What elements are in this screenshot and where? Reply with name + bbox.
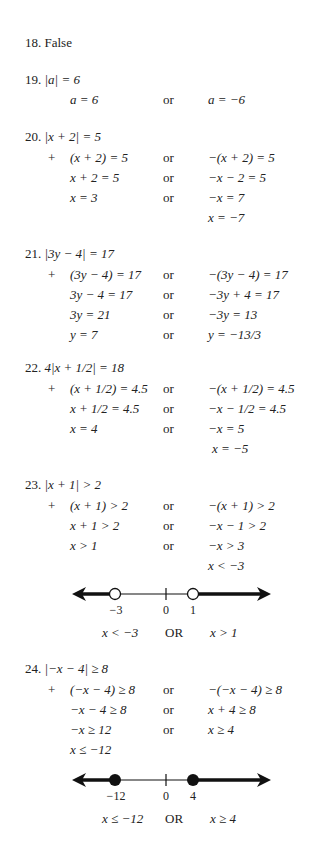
step-connector: or (163, 538, 174, 553)
tick-label: 4 (190, 790, 196, 803)
tick-label: 0 (163, 790, 169, 803)
step-right: −x > 3 (208, 538, 244, 553)
step-left: x + 1/2 = 4.5 (70, 401, 139, 416)
closed-circle-icon (109, 774, 121, 786)
step-left: (−x − 4) ≥ 8 (70, 682, 135, 697)
problem-number: 23. (25, 477, 41, 492)
problem-number: 22. (25, 360, 41, 375)
problem-22-heading: 22. 4|x + 1/2| = 18 (25, 360, 124, 375)
step-right: −x = 5 (208, 421, 244, 436)
step-left: −x − 4 ≥ 8 (70, 702, 126, 717)
problem-equation: |x + 2| = 5 (45, 129, 101, 144)
step-right: x < −3 (208, 558, 244, 573)
problem-24-heading: 24. |−x − 4| ≥ 8 (25, 661, 108, 676)
step-connector: or (163, 327, 174, 342)
step-connector: or (163, 307, 174, 322)
step-connector: or (163, 92, 174, 107)
plus-marker: + (48, 150, 55, 165)
step-left: 3y = 21 (70, 307, 111, 322)
open-circle-icon (188, 589, 199, 600)
step-connector: or (163, 722, 174, 737)
problem-number: 21. (25, 246, 41, 261)
step-right: −x − 1/2 = 4.5 (208, 401, 286, 416)
step-connector: or (163, 190, 174, 205)
step-connector: or (163, 498, 174, 513)
solution-left: x ≤ −12 (102, 811, 143, 826)
cut-off-previous-line (0, 0, 311, 3)
step-left: a = 6 (70, 92, 98, 107)
tick-label: −12 (107, 790, 126, 803)
step-connector: or (163, 381, 174, 396)
step-right: x + 4 ≥ 8 (208, 702, 256, 717)
step-connector: or (163, 682, 174, 697)
number-line-24 (0, 766, 311, 796)
step-left: −x ≥ 12 (70, 722, 111, 737)
step-left: x + 2 = 5 (70, 170, 119, 185)
open-circle-icon (110, 589, 121, 600)
tick-label: −3 (110, 604, 123, 617)
step-connector: or (163, 421, 174, 436)
plus-marker: + (48, 498, 55, 513)
problem-equation: |x + 1| > 2 (45, 477, 101, 492)
problem-18: 18. False (25, 35, 72, 50)
step-connector: or (163, 702, 174, 717)
step-right: x = −7 (208, 210, 244, 225)
step-left: y = 7 (70, 327, 98, 342)
problem-equation: |3y − 4| = 17 (45, 246, 114, 261)
step-right: −(3y − 4) = 17 (208, 267, 288, 282)
step-right: −(−x − 4) ≥ 8 (208, 682, 282, 697)
closed-circle-icon (187, 774, 199, 786)
step-right: −3y = 13 (208, 307, 257, 322)
plus-marker: + (48, 381, 55, 396)
step-connector: or (163, 170, 174, 185)
step-left: (x + 1/2) = 4.5 (70, 381, 148, 396)
step-left: (3y − 4) = 17 (70, 267, 141, 282)
step-left: x ≤ −12 (70, 742, 111, 757)
problem-equation: 4|x + 1/2| = 18 (45, 360, 125, 375)
step-connector: or (163, 401, 174, 416)
step-left: x = 4 (70, 421, 98, 436)
step-right: −x = 7 (208, 190, 244, 205)
step-right: y = −13/3 (208, 327, 261, 342)
problem-number: 20. (25, 129, 41, 144)
solution-left: x < −3 (102, 625, 138, 640)
solution-right: x ≥ 4 (210, 811, 236, 826)
problem-equation: |−x − 4| ≥ 8 (45, 661, 109, 676)
plus-marker: + (48, 267, 55, 282)
step-right: −3y + 4 = 17 (208, 287, 279, 302)
step-right: −(x + 1/2) = 4.5 (208, 381, 295, 396)
step-right: x ≥ 4 (208, 722, 234, 737)
step-right: −(x + 1) > 2 (208, 498, 275, 513)
step-left: (x + 1) > 2 (70, 498, 128, 513)
problem-number: 24. (25, 661, 41, 676)
problem-answer: False (45, 35, 72, 50)
tick-label: 1 (190, 604, 196, 617)
step-left: x = 3 (70, 190, 98, 205)
step-left: 3y − 4 = 17 (70, 287, 132, 302)
solution-connector: OR (165, 811, 183, 826)
step-right: −x − 1 > 2 (208, 518, 266, 533)
problem-number: 19. (25, 72, 41, 87)
step-left: (x + 2) = 5 (70, 150, 128, 165)
step-left: x > 1 (70, 538, 98, 553)
number-line-23 (0, 580, 311, 610)
step-right: −(x + 2) = 5 (208, 150, 275, 165)
step-connector: or (163, 518, 174, 533)
step-left: x + 1 > 2 (70, 518, 119, 533)
step-connector: or (163, 287, 174, 302)
step-right: x = −5 (212, 441, 248, 456)
problem-21-heading: 21. |3y − 4| = 17 (25, 246, 114, 261)
plus-marker: + (48, 682, 55, 697)
step-right: −x − 2 = 5 (208, 170, 266, 185)
problem-20-heading: 20. |x + 2| = 5 (25, 129, 101, 144)
step-right: a = −6 (208, 92, 245, 107)
tick-label: 0 (163, 604, 169, 617)
step-connector: or (163, 150, 174, 165)
problem-number: 18. (25, 35, 41, 50)
step-connector: or (163, 267, 174, 282)
problem-23-heading: 23. |x + 1| > 2 (25, 477, 101, 492)
problem-equation: |a| = 6 (45, 72, 80, 87)
solution-connector: OR (165, 625, 183, 640)
problem-19-heading: 19. |a| = 6 (25, 72, 80, 87)
solution-right: x > 1 (210, 625, 238, 640)
